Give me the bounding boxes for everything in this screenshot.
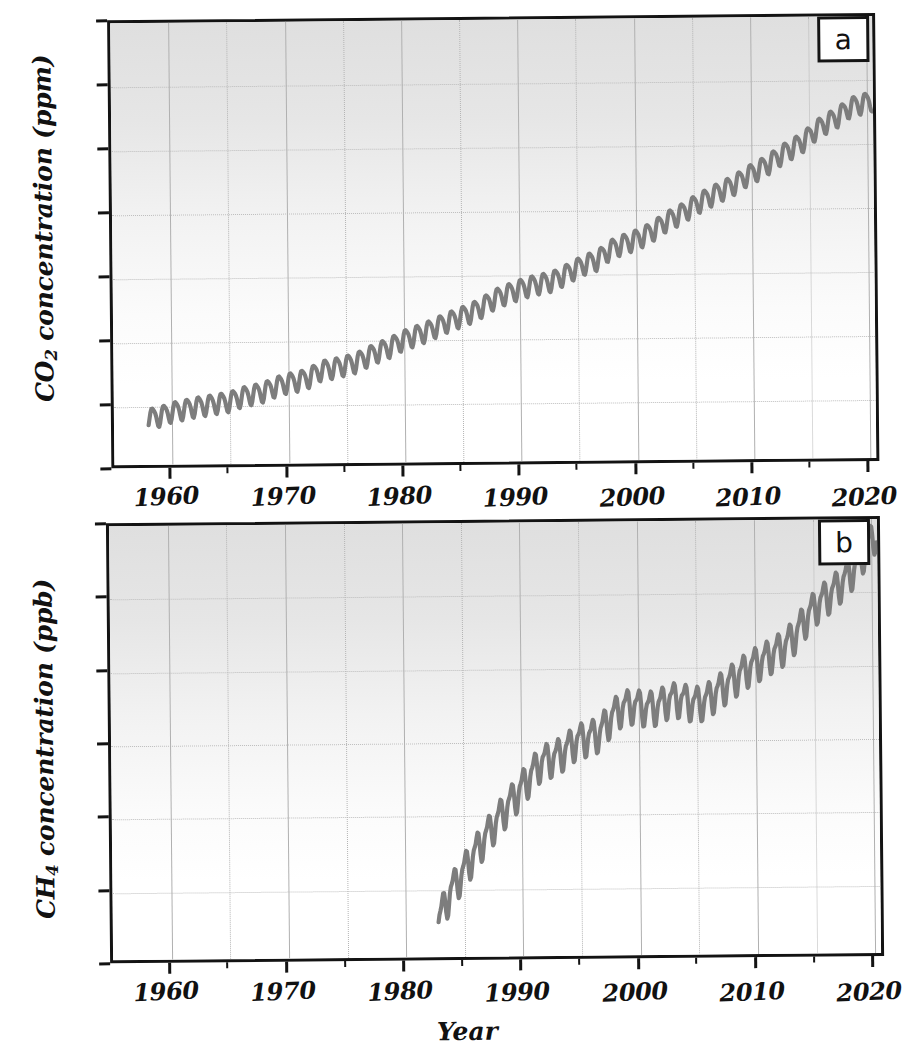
- y-axis-tick: [96, 669, 107, 672]
- y-axis-tick: [96, 596, 107, 599]
- x-axis-tick: [227, 467, 229, 473]
- panel-co2: CO2 concentration (ppm) 4404204003803603…: [0, 0, 909, 516]
- y-axis-tick: [98, 816, 109, 819]
- x-axis-tick: [578, 959, 580, 965]
- x-axis-title: Year: [437, 1017, 498, 1047]
- x-axis-tick: [576, 464, 578, 470]
- x-axis-tick-label: 1980: [367, 975, 433, 1007]
- x-axis-tick: [692, 463, 694, 469]
- x-axis-tick: [809, 462, 811, 468]
- x-axis-tick: [401, 465, 404, 476]
- x-axis-tick: [750, 462, 753, 473]
- x-axis-tick: [459, 465, 461, 471]
- y-axis-tick: [100, 467, 111, 470]
- x-axis-tick: [754, 957, 757, 968]
- y-axis-tick: [97, 83, 108, 86]
- x-axis-tick: [402, 960, 405, 971]
- x-axis-tick-label: 1970: [250, 975, 316, 1007]
- panel-label-b: b: [818, 519, 870, 565]
- x-axis-tick-label: 1960: [132, 975, 198, 1007]
- x-axis-tick-label: 2020: [836, 976, 902, 1008]
- axis-ticks-co2: [107, 13, 879, 468]
- y-axis-tick: [99, 339, 110, 342]
- x-axis-tick: [695, 958, 697, 964]
- y-axis-tick: [100, 403, 111, 406]
- x-axis-tick: [168, 963, 171, 974]
- x-axis-tick: [344, 961, 346, 967]
- greenhouse-gas-figure: CO2 concentration (ppm) 4404204003803603…: [0, 0, 909, 1059]
- y-axis-tick: [99, 275, 110, 278]
- y-axis-tick: [98, 211, 109, 214]
- x-axis-tick-label: 2000: [602, 976, 668, 1008]
- y-axis-tick: [97, 742, 108, 745]
- x-axis-tick: [518, 464, 521, 475]
- x-axis-tick: [169, 468, 172, 479]
- y-axis-tick: [97, 147, 108, 150]
- x-axis-tick: [343, 466, 345, 472]
- x-axis-tick: [867, 461, 870, 472]
- axis-ticks-ch4: [106, 516, 884, 963]
- panel-ch4: CH4 concentration (ppb) 1900185018001750…: [0, 501, 909, 1059]
- x-axis-tick: [813, 957, 815, 963]
- x-axis-tick: [285, 467, 288, 478]
- y-axis-tick: [98, 889, 109, 892]
- y-axis-tick: [99, 962, 110, 965]
- x-axis-tick-label: 1990: [484, 976, 550, 1008]
- y-axis-tick: [95, 522, 106, 525]
- x-axis-tick: [285, 962, 288, 973]
- x-axis-tick: [637, 958, 640, 969]
- x-axis-tick: [226, 962, 228, 968]
- x-axis-tick: [634, 463, 637, 474]
- x-axis-tick: [520, 959, 523, 970]
- panel-label-a: a: [817, 16, 869, 62]
- x-axis-tick-label: 2010: [719, 976, 785, 1008]
- x-axis-tick: [461, 960, 463, 966]
- y-axis-tick: [96, 19, 107, 22]
- x-axis-tick: [871, 956, 874, 967]
